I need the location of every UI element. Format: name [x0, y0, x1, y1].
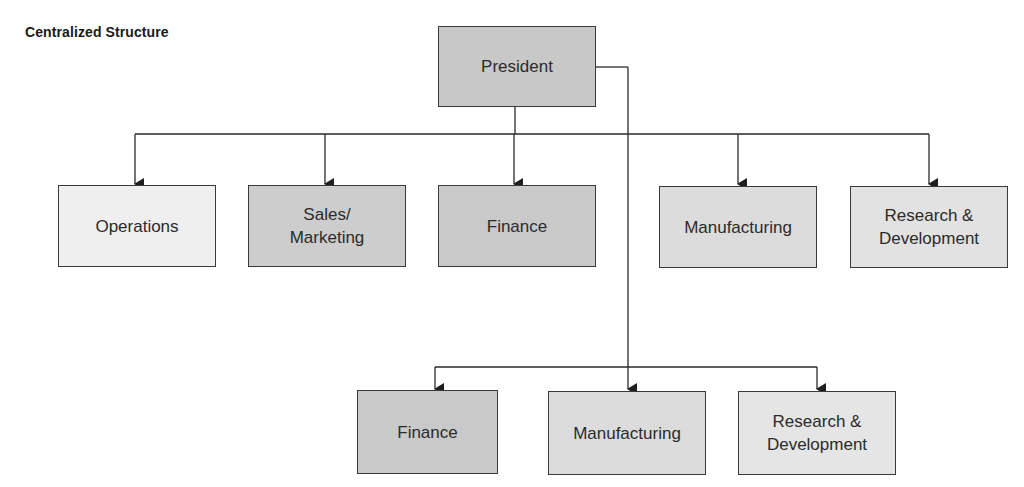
- node-manufacturing-bottom: Manufacturing: [548, 391, 706, 475]
- node-research-development-bottom: Research & Development: [738, 391, 896, 475]
- node-finance-top: Finance: [438, 185, 596, 267]
- node-manufacturing-top: Manufacturing: [659, 186, 817, 268]
- node-sales-marketing: Sales/ Marketing: [248, 185, 406, 267]
- node-president: President: [438, 26, 596, 107]
- node-finance-bottom: Finance: [357, 390, 498, 474]
- node-research-development-top: Research & Development: [850, 186, 1008, 268]
- node-operations: Operations: [58, 185, 216, 267]
